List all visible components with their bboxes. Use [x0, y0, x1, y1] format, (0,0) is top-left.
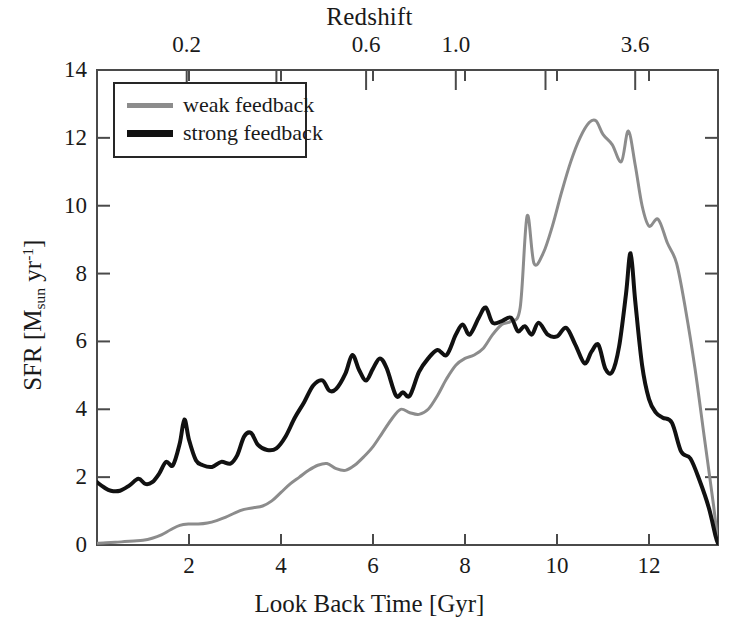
- legend-line-icon: [127, 130, 173, 137]
- legend-item[interactable]: weak feedback: [115, 91, 305, 119]
- plot-area: [0, 0, 739, 632]
- series-line-strong-feedback: [97, 253, 718, 543]
- legend-line-icon: [127, 103, 173, 108]
- sfr-lookback-time-chart: Redshift SFR [Msun yr-1] Look Back Time …: [0, 0, 739, 632]
- legend-label: strong feedback: [183, 120, 323, 146]
- series-line-weak-feedback: [97, 120, 718, 543]
- legend-label: weak feedback: [183, 92, 314, 118]
- legend-item[interactable]: strong feedback: [115, 119, 305, 147]
- chart-legend: weak feedbackstrong feedback: [113, 82, 307, 158]
